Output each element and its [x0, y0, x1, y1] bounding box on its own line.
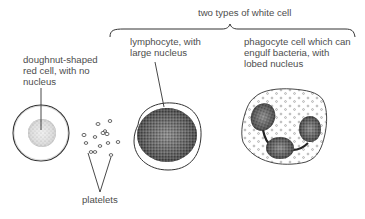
- phagocyte: [242, 89, 327, 164]
- platelets-pointers: [88, 153, 111, 192]
- platelets: [82, 120, 120, 157]
- lymphocyte-pointer: [155, 62, 164, 107]
- red-cell: [13, 88, 69, 161]
- cells-illustration: [0, 0, 365, 219]
- white-cell-brace: [110, 24, 355, 37]
- lymphocyte: [134, 62, 201, 170]
